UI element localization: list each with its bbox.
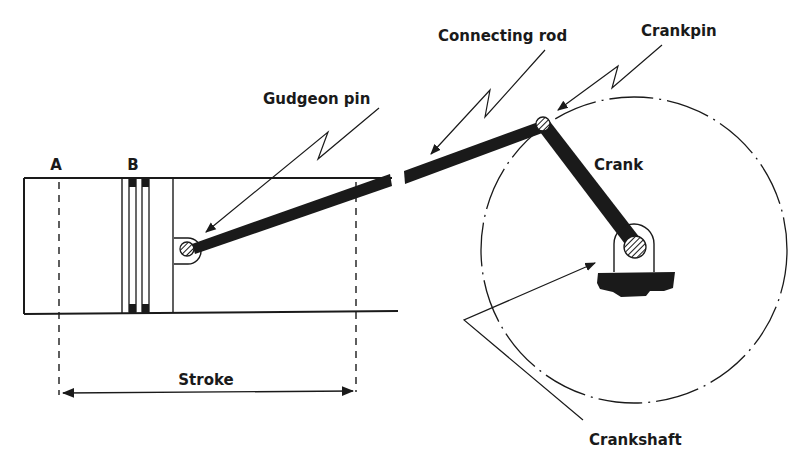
crankpin-pointer: [558, 45, 662, 110]
label-connecting-rod: Connecting rod: [438, 27, 567, 45]
piston: [122, 178, 201, 313]
crank: [536, 117, 640, 248]
crank-arm: [537, 119, 640, 248]
cylinder-bottom-wall: [24, 311, 398, 314]
piston-crank-diagram: A B Gudgeon pin Connecting rod Crankpin …: [0, 0, 810, 467]
connecting-rod-pointer: [431, 50, 545, 154]
label-crank: Crank: [594, 156, 644, 174]
label-position-a: A: [50, 156, 62, 174]
piston-ring-2: [142, 179, 149, 313]
stroke-dimension-arrow: [63, 391, 353, 393]
connecting-rod-lower-segment: [192, 174, 392, 254]
label-crankshaft: Crankshaft: [589, 431, 682, 449]
label-crankpin: Crankpin: [641, 22, 717, 40]
crankpin: [536, 117, 550, 131]
dead-centre-lines: [59, 182, 356, 395]
label-gudgeon-pin: Gudgeon pin: [263, 90, 370, 108]
connecting-rod-upper-segment: [404, 121, 545, 184]
crankshaft-journal: [624, 236, 646, 258]
piston-ring-1: [129, 179, 136, 313]
label-stroke: Stroke: [178, 371, 233, 389]
bearing-base: [597, 272, 675, 297]
label-position-b: B: [127, 156, 138, 174]
crankshaft-pointer: [464, 263, 595, 420]
gudgeon-pin: [180, 242, 194, 256]
connecting-rod: [192, 121, 545, 254]
